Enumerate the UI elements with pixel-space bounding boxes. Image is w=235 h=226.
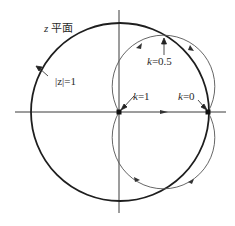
leader-arrowhead-icon <box>162 38 167 44</box>
arrow-icon <box>188 45 194 51</box>
unit-circle-label: |z|=1 <box>55 75 76 87</box>
arrow-icon <box>160 110 168 114</box>
k05-label: k=0.5 <box>147 55 172 67</box>
k1-label: k=1 <box>133 90 150 102</box>
plane-title: z平面 <box>43 22 73 34</box>
k0-point-marker <box>206 110 211 115</box>
arrow-icon <box>188 179 194 184</box>
z-plane-root-locus-diagram: z平面 |z|=1 k=0.5 k=1 k=0 <box>0 0 235 226</box>
arrow-icon <box>136 43 142 49</box>
k0-label: k=0 <box>178 90 195 102</box>
